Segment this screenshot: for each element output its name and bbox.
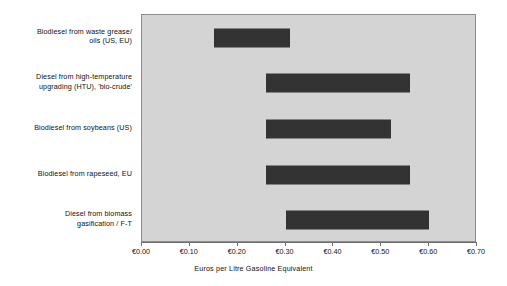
category-label-line: Diesel from high-temperature [0,73,132,83]
chart-figure: Biodiesel from waste grease/oils (US, EU… [0,0,507,286]
x-tick-label: €0.00 [132,247,150,256]
category-label: Diesel from high-temperatureupgrading (H… [0,73,132,92]
category-label: Biodiesel from waste grease/oils (US, EU… [0,27,132,46]
bar [266,165,410,184]
category-label-line: Biodiesel from waste grease/ [0,27,132,37]
bar [214,28,291,47]
x-tick-mark [237,242,238,246]
category-label-line: Diesel from biomass [0,210,132,220]
x-tick-mark [189,242,190,246]
category-label-line: upgrading (HTU), 'bio-crude' [0,82,132,92]
x-axis-ticks: €0.00€0.10€0.20€0.30€0.40€0.50€0.60€0.70 [141,242,476,248]
x-tick-mark [332,242,333,246]
x-tick-mark [476,242,477,246]
x-tick-mark [428,242,429,246]
category-label-line: Biodiesel from rapeseed, EU [0,169,132,179]
plot-area [141,14,476,242]
x-tick-label: €0.30 [276,247,294,256]
bar [286,211,430,230]
x-tick-label: €0.40 [323,247,341,256]
x-tick-mark [285,242,286,246]
category-label: Biodiesel from rapeseed, EU [0,169,132,179]
x-tick-label: €0.60 [419,247,437,256]
x-tick-mark [380,242,381,246]
bar [266,120,390,139]
x-axis-title: Euros per Litre Gasoline Equivalent [0,264,507,273]
bar [266,74,410,93]
x-tick-label: €0.50 [371,247,389,256]
x-tick-label: €0.70 [467,247,485,256]
category-label: Biodiesel from soybeans (US) [0,123,132,133]
category-axis-labels: Biodiesel from waste grease/oils (US, EU… [0,14,136,242]
category-label-line: gasification / F-T [0,219,132,229]
x-tick-mark [141,242,142,246]
category-label-line: oils (US, EU) [0,37,132,47]
x-tick-label: €0.10 [180,247,198,256]
category-label-line: Biodiesel from soybeans (US) [0,123,132,133]
category-label: Diesel from biomassgasification / F-T [0,210,132,229]
x-tick-label: €0.20 [228,247,246,256]
